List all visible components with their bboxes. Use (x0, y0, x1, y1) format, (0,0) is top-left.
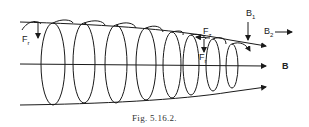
label-b1: B1 (246, 9, 255, 20)
helix-loop (105, 25, 127, 103)
label-fr-mid: Fr (199, 53, 207, 64)
helix-loop (206, 39, 220, 91)
figure-caption: Fig. 5.16.2. (0, 113, 309, 123)
label-fr-left: Fr (22, 35, 30, 46)
label-fz: Fz (203, 27, 212, 38)
helix-loop (73, 23, 95, 103)
label-b: B (282, 62, 289, 71)
magnetic-mirror-diagram (0, 0, 309, 127)
center-field-line (20, 64, 266, 66)
label-b2: B2 (264, 27, 273, 38)
helix-loop (136, 28, 156, 100)
